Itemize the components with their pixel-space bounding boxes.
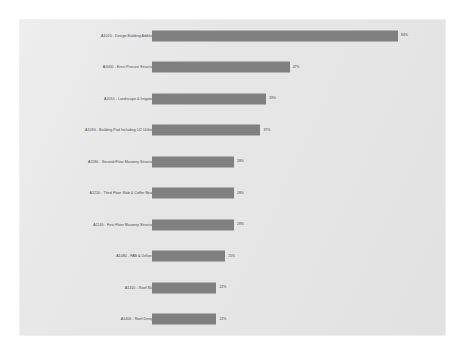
bar-row: A2010 - Landscape & Irrigation39% bbox=[20, 83, 445, 115]
bar-track: 22% bbox=[152, 282, 445, 293]
bar-fill[interactable] bbox=[152, 219, 234, 230]
plot-panel: A1020 - Design Building Addition84%A2000… bbox=[20, 20, 445, 335]
bar-value-label: 28% bbox=[237, 159, 244, 164]
bar-value-label: 84% bbox=[401, 33, 408, 38]
bar-row: A1030 - Building Pad Including 1/2 Utili… bbox=[20, 115, 445, 147]
bar-fill[interactable] bbox=[152, 282, 216, 293]
bar-category-label: A1020 - Design Building Addition bbox=[101, 33, 155, 38]
bar-row: A1400 - Roof Design22% bbox=[20, 304, 445, 336]
bar-fill[interactable] bbox=[152, 93, 266, 104]
bar-category-label: A1400 - Roof Design bbox=[121, 317, 155, 322]
bar-track: 22% bbox=[152, 314, 445, 325]
bar-value-label: 22% bbox=[219, 317, 226, 322]
chart-figure: A1020 - Design Building Addition84%A2000… bbox=[0, 0, 467, 354]
bar-track: 84% bbox=[152, 30, 445, 41]
bar-value-label: 28% bbox=[237, 222, 244, 227]
bar-row: A1180 - Second Floor Masonry Structure28… bbox=[20, 146, 445, 178]
bar-fill[interactable] bbox=[152, 314, 216, 325]
bar-category-label: A1030 - Building Pad Including 1/2 Utili… bbox=[85, 128, 155, 133]
bar-category-label: A1310 - Roof Slab bbox=[125, 285, 155, 290]
bar-track: 47% bbox=[152, 62, 445, 73]
bar-fill[interactable] bbox=[152, 251, 225, 262]
bar-category-label: A1180 - Second Floor Masonry Structure bbox=[88, 159, 155, 164]
bar-fill[interactable] bbox=[152, 188, 234, 199]
bar-category-label: A1140 - First Floor Masonry Structure bbox=[93, 222, 155, 227]
bar-row: A1080 - FAB & Delivery25% bbox=[20, 241, 445, 273]
bar-row: A1020 - Design Building Addition84% bbox=[20, 20, 445, 52]
bar-category-label: A1080 - FAB & Delivery bbox=[116, 254, 155, 259]
bar-fill[interactable] bbox=[152, 30, 398, 41]
bar-track: 39% bbox=[152, 93, 445, 104]
bar-row: A1310 - Roof Slab22% bbox=[20, 272, 445, 304]
bar-track: 28% bbox=[152, 219, 445, 230]
bar-value-label: 47% bbox=[293, 65, 300, 70]
bar-track: 28% bbox=[152, 156, 445, 167]
bar-value-label: 28% bbox=[237, 191, 244, 196]
bar-value-label: 39% bbox=[269, 96, 276, 101]
bar-category-label: A2000 - Erect Precast Structure bbox=[103, 65, 155, 70]
bar-value-label: 22% bbox=[219, 285, 226, 290]
bar-fill[interactable] bbox=[152, 156, 234, 167]
bar-fill[interactable] bbox=[152, 62, 290, 73]
bar-category-label: A1210 - Third Floor Slab & Coffer Beam bbox=[90, 191, 156, 196]
bar-track: 25% bbox=[152, 251, 445, 262]
bar-fill[interactable] bbox=[152, 125, 260, 136]
bar-track: 37% bbox=[152, 125, 445, 136]
bar-value-label: 25% bbox=[228, 254, 235, 259]
bar-category-label: A2010 - Landscape & Irrigation bbox=[104, 96, 155, 101]
bar-row: A2000 - Erect Precast Structure47% bbox=[20, 52, 445, 84]
bar-row: A1140 - First Floor Masonry Structure28% bbox=[20, 209, 445, 241]
bar-track: 28% bbox=[152, 188, 445, 199]
bar-value-label: 37% bbox=[263, 128, 270, 133]
bar-row: A1210 - Third Floor Slab & Coffer Beam28… bbox=[20, 178, 445, 210]
